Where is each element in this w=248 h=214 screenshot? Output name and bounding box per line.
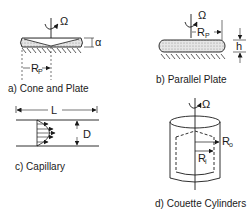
radius-label: R <box>197 26 205 38</box>
caption-capillary: c) Capillary <box>15 161 65 172</box>
panel-capillary <box>16 106 99 146</box>
caption-cone-and-plate: a) Cone and Plate <box>8 83 89 94</box>
outer-radius-subscript: o <box>229 141 233 148</box>
rotation-arrow-icon <box>45 24 58 29</box>
plate-hatching <box>22 48 81 53</box>
panel-parallel-plate <box>159 14 246 63</box>
rotation-label: Ω <box>202 98 210 110</box>
diameter-label: D <box>83 128 91 140</box>
inner-radius-subscript: i <box>205 158 207 165</box>
rotation-label: Ω <box>198 9 206 21</box>
rotation-label: Ω <box>60 15 68 27</box>
gap-label: h <box>236 40 242 52</box>
rheometer-geometries-diagram: Ω α R P a) Cone and Plate <box>0 0 248 214</box>
panel-couette-cylinders <box>170 98 220 190</box>
plate-hatching <box>161 54 225 59</box>
radius-subscript: P <box>38 68 43 75</box>
angle-label: α <box>95 36 102 48</box>
parallel-plate-body <box>159 40 225 52</box>
radius-subscript: P <box>205 32 210 39</box>
caption-couette-cylinders: d) Couette Cylinders <box>155 198 246 209</box>
caption-parallel-plate: b) Parallel Plate <box>156 74 227 85</box>
length-label: L <box>51 104 57 116</box>
